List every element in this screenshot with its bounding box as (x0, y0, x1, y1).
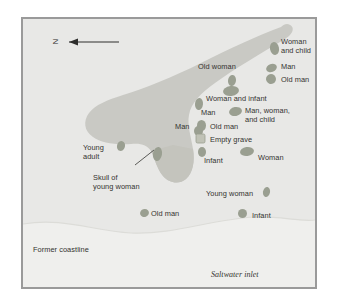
grave-marker-old-man-upper-right[interactable] (264, 72, 277, 85)
grave-label-empty-grave: Empty grave (210, 136, 252, 145)
grave-label-infant-lower: Infant (252, 212, 271, 221)
grave-label-skull-of-young-woman: Skull of young woman (93, 174, 140, 191)
grave-label-man-mid-upper: Man (201, 109, 216, 118)
grave-label-young-woman: Young woman (206, 190, 253, 199)
grave-label-old-woman: Old woman (198, 63, 236, 72)
grave-label-man-left-center: Man (175, 123, 190, 132)
north-letter: N (51, 39, 60, 45)
terrain-label-former-coastline: Former coastline (33, 246, 89, 255)
grave-label-old-man-center: Old man (210, 123, 238, 132)
site-map-figure: N Woman and childManOld manOld womanWoma… (0, 0, 338, 305)
grave-label-woman-and-infant: Woman and infant (206, 95, 267, 104)
grave-label-man-woman-and-child: Man, woman, and child (245, 107, 290, 124)
grave-marker-man-upper-right[interactable] (265, 62, 278, 73)
north-arrow (69, 39, 119, 46)
grave-label-woman-right: Woman (258, 154, 284, 163)
grave-label-old-man-upper-right: Old man (281, 76, 309, 85)
grave-label-infant-center: Infant (204, 157, 223, 166)
skull-leader-line (135, 150, 154, 165)
grave-marker-man-woman-and-child[interactable] (228, 106, 242, 117)
grave-label-man-upper-right: Man (281, 63, 296, 72)
grave-label-young-adult: Young adult (83, 144, 104, 161)
grave-marker-young-woman[interactable] (262, 186, 271, 197)
grave-marker-infant-lower[interactable] (238, 209, 247, 218)
grave-marker-empty-grave[interactable] (196, 134, 205, 143)
grave-marker-woman-right[interactable] (239, 146, 254, 157)
terrain-label-saltwater-inlet: Saltwater inlet (211, 271, 259, 280)
grave-label-woman-and-child: Woman and child (281, 38, 311, 55)
grave-marker-old-man-lower[interactable] (139, 208, 150, 219)
grave-marker-old-woman[interactable] (227, 74, 236, 86)
grave-label-old-man-lower: Old man (151, 210, 179, 219)
map-frame: N Woman and childManOld manOld womanWoma… (21, 17, 317, 289)
